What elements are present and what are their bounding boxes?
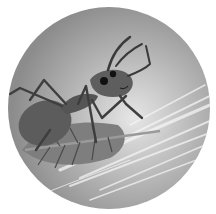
- ant-eye: [100, 77, 108, 85]
- ant-illustration: [0, 0, 216, 214]
- illustration-frame: [0, 0, 216, 214]
- ant-eye: [110, 71, 116, 77]
